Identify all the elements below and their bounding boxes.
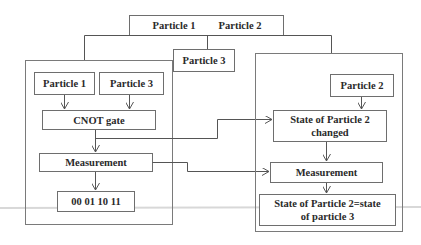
shared-particle-3-label: Particle 3 xyxy=(183,55,226,66)
receiver-particle-2-label: Particle 2 xyxy=(341,80,384,91)
outcomes-label: 00 01 10 11 xyxy=(71,196,120,207)
state-changed-label-line2: changed xyxy=(311,127,349,138)
sender-particle-3-label: Particle 3 xyxy=(110,78,153,89)
cnot-gate-label: CNOT gate xyxy=(73,115,125,126)
result-box: State of Particle 2=state of particle 3 xyxy=(260,195,396,226)
top-particles-box: Particle 1 Particle 2 xyxy=(130,16,284,36)
outcomes-box: 00 01 10 11 xyxy=(58,192,135,212)
receiver-particle-2-box: Particle 2 xyxy=(331,75,394,97)
cnot-gate-box: CNOT gate xyxy=(43,111,156,130)
receiver-measurement-label: Measurement xyxy=(296,167,358,178)
teleportation-diagram: Particle 1 Particle 2 Particle 3 Particl… xyxy=(0,0,421,245)
top-particle-1-label: Particle 1 xyxy=(153,20,196,31)
receiver-measurement-box: Measurement xyxy=(271,163,383,183)
sender-particle-1-label: Particle 1 xyxy=(43,78,86,89)
result-label-line1: State of Particle 2=state xyxy=(274,198,381,209)
sender-particle-1-box: Particle 1 xyxy=(35,73,95,95)
sender-measurement-box: Measurement xyxy=(40,154,153,172)
sender-particle-3-box: Particle 3 xyxy=(100,73,164,95)
top-particle-2-label: Particle 2 xyxy=(219,20,262,31)
sender-measurement-label: Measurement xyxy=(65,157,127,168)
shared-particle-3-box: Particle 3 xyxy=(174,50,235,72)
arrow-measurement-to-receiver-measurement xyxy=(153,163,270,172)
state-changed-box: State of Particle 2 changed xyxy=(274,111,387,142)
state-changed-label-line1: State of Particle 2 xyxy=(290,114,370,125)
result-label-line2: of particle 3 xyxy=(301,211,355,222)
